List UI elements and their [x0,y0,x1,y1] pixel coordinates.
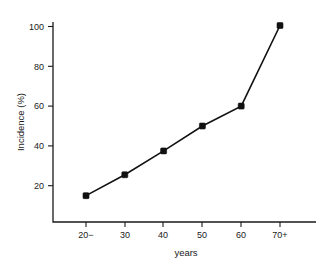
line-chart: 100 80 60 40 20 Incidence (%) 20− 30 40 … [0,0,336,264]
data-point [199,123,205,129]
x-tick-label: 60 [236,230,246,240]
data-point [161,148,167,154]
y-tick-label: 60 [34,101,44,111]
x-tick-label: 20− [78,230,93,240]
y-tick-label: 40 [34,141,44,151]
data-point [238,103,244,109]
y-tick-label: 20 [34,181,44,191]
chart-figure: 100 80 60 40 20 Incidence (%) 20− 30 40 … [0,0,336,264]
data-point [122,172,128,178]
x-axis-title: years [174,247,197,258]
chart-background [0,0,336,264]
x-tick-label: 70+ [272,230,287,240]
y-tick-label: 100 [29,22,44,32]
y-tick-label: 80 [34,62,44,72]
x-tick-label: 40 [158,230,168,240]
y-axis-title: Incidence (%) [15,93,26,151]
data-point [83,193,89,199]
x-tick-label: 50 [197,230,207,240]
data-point [277,23,283,29]
x-tick-label: 30 [120,230,130,240]
